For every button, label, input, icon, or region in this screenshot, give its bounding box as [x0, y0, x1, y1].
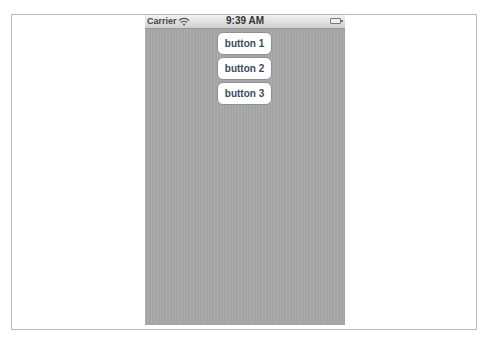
button-1[interactable]: button 1 [217, 32, 272, 55]
simulator-screen: Carrier 9:39 AM button 1 button 2 button… [145, 15, 345, 325]
status-bar: Carrier 9:39 AM [145, 15, 345, 29]
button-3[interactable]: button 3 [217, 82, 272, 105]
button-2[interactable]: button 2 [217, 57, 272, 80]
status-time: 9:39 AM [145, 15, 345, 26]
battery-icon [330, 18, 341, 24]
